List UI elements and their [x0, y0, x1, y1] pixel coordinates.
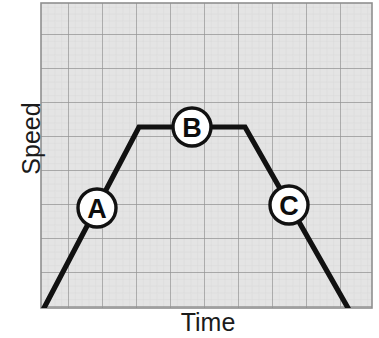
x-axis-label: Time	[148, 308, 268, 337]
marker-c: C	[270, 186, 308, 224]
chart-plot-area: A B C	[0, 0, 379, 338]
marker-a-label: A	[87, 194, 107, 224]
marker-b-label: B	[182, 113, 202, 143]
speed-time-chart-figure: A B C Speed Time	[0, 0, 379, 338]
marker-b: B	[173, 108, 211, 146]
y-axis-label: Speed	[17, 94, 46, 184]
marker-c-label: C	[279, 191, 299, 221]
marker-a: A	[78, 189, 116, 227]
